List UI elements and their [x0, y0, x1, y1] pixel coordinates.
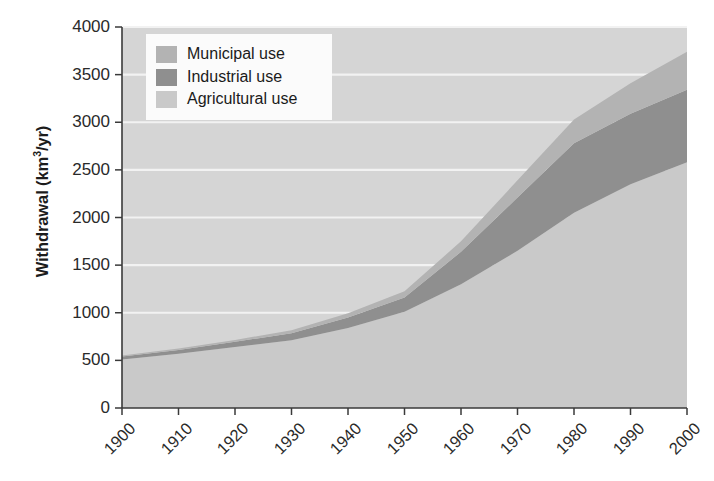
x-tick-1920: 1920	[202, 419, 252, 469]
legend-entry-municipal: Municipal use	[156, 44, 324, 64]
legend-label-agricultural: Agricultural use	[187, 89, 297, 109]
legend-entry-industrial: Industrial use	[156, 67, 324, 87]
legend-swatch-agricultural-icon	[156, 91, 177, 108]
legend: Municipal use Industrial use Agricultura…	[146, 34, 332, 120]
x-tick-1930: 1930	[259, 419, 309, 469]
legend-swatch-industrial-icon	[156, 69, 177, 86]
x-tick-1900: 1900	[89, 419, 139, 469]
x-tick-1980: 1980	[541, 419, 591, 469]
x-tick-1970: 1970	[485, 419, 535, 469]
x-tick-1940: 1940	[315, 419, 365, 469]
x-tick-2000: 2000	[654, 419, 704, 469]
x-tick-1960: 1960	[428, 419, 478, 469]
water-withdrawal-area-chart: Withdrawal (km3/yr) 4000 3500 3000 2500 …	[0, 0, 714, 481]
x-tick-1950: 1950	[372, 419, 422, 469]
x-tick-1910: 1910	[146, 419, 196, 469]
legend-label-municipal: Municipal use	[187, 44, 285, 64]
x-axis-tick-labels: 1900 1910 1920 1930 1940 1950 1960 1970 …	[0, 0, 714, 481]
legend-label-industrial: Industrial use	[187, 67, 282, 87]
legend-entry-agricultural: Agricultural use	[156, 89, 324, 109]
legend-swatch-municipal-icon	[156, 46, 177, 63]
x-tick-1990: 1990	[598, 419, 648, 469]
